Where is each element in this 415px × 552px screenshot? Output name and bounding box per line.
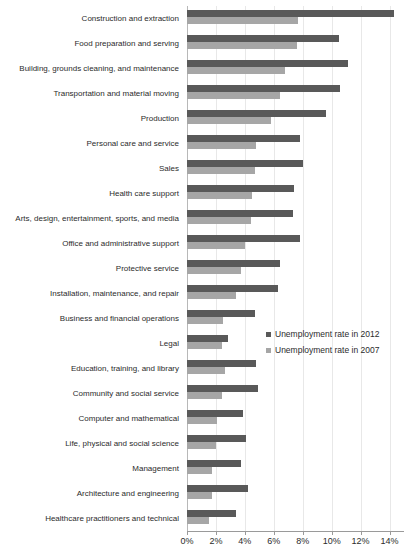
bar-2012 bbox=[187, 235, 300, 242]
bar-row bbox=[187, 431, 404, 456]
category-label: Construction and extraction bbox=[0, 6, 184, 31]
category-label: Transportation and material moving bbox=[0, 81, 184, 106]
bar-2012 bbox=[187, 60, 348, 67]
x-tick-2pct bbox=[216, 531, 217, 535]
legend-swatch-icon bbox=[266, 348, 271, 353]
x-tick-12pct bbox=[361, 531, 362, 535]
category-label: Life, physical and social science bbox=[0, 431, 184, 456]
bar-2007 bbox=[187, 217, 251, 224]
bar-row bbox=[187, 181, 404, 206]
category-label: Production bbox=[0, 106, 184, 131]
bar-2007 bbox=[187, 467, 212, 474]
x-tick-6pct bbox=[274, 531, 275, 535]
legend-swatch-icon bbox=[266, 332, 271, 337]
legend-label: Unemployment rate in 2012 bbox=[275, 329, 379, 339]
bar-2012 bbox=[187, 385, 258, 392]
bar-row bbox=[187, 31, 404, 56]
bar-2012 bbox=[187, 285, 278, 292]
x-tick-label: 12% bbox=[352, 536, 370, 546]
category-label: Sales bbox=[0, 156, 184, 181]
bar-row bbox=[187, 281, 404, 306]
bar-2012 bbox=[187, 410, 243, 417]
bar-2012 bbox=[187, 10, 394, 17]
category-label: Computer and mathematical bbox=[0, 406, 184, 431]
bar-2007 bbox=[187, 192, 252, 199]
bar-2012 bbox=[187, 35, 339, 42]
legend-item[interactable]: Unemployment rate in 2007 bbox=[266, 342, 406, 358]
x-tick-14pct bbox=[390, 531, 391, 535]
legend-label: Unemployment rate in 2007 bbox=[275, 345, 379, 355]
x-tick-4pct bbox=[245, 531, 246, 535]
bar-2007 bbox=[187, 342, 222, 349]
x-axis-tick-labels: 0%2%4%6%8%10%12%14% bbox=[0, 536, 415, 550]
bar-row bbox=[187, 106, 404, 131]
bar-2012 bbox=[187, 335, 228, 342]
x-tick-label: 6% bbox=[267, 536, 280, 546]
x-tick-label: 8% bbox=[296, 536, 309, 546]
x-tick-label: 2% bbox=[209, 536, 222, 546]
bar-2007 bbox=[187, 417, 217, 424]
plot-area bbox=[187, 6, 404, 531]
category-label: Office and administrative support bbox=[0, 231, 184, 256]
bar-2012 bbox=[187, 360, 256, 367]
legend: Unemployment rate in 2012Unemployment ra… bbox=[266, 326, 406, 358]
bar-row bbox=[187, 256, 404, 281]
category-label: Business and financial operations bbox=[0, 306, 184, 331]
bar-2007 bbox=[187, 492, 212, 499]
bar-2012 bbox=[187, 485, 248, 492]
bar-2012 bbox=[187, 160, 303, 167]
bar-2007 bbox=[187, 267, 241, 274]
category-label: Personal care and service bbox=[0, 131, 184, 156]
x-tick-label: 14% bbox=[381, 536, 399, 546]
category-axis-labels: Construction and extractionFood preparat… bbox=[0, 6, 184, 531]
bar-row bbox=[187, 131, 404, 156]
bar-row bbox=[187, 356, 404, 381]
bar-2007 bbox=[187, 317, 223, 324]
bar-2007 bbox=[187, 17, 298, 24]
bar-2007 bbox=[187, 517, 209, 524]
bar-2007 bbox=[187, 242, 245, 249]
bar-row bbox=[187, 381, 404, 406]
bar-row bbox=[187, 156, 404, 181]
category-label: Protective service bbox=[0, 256, 184, 281]
bar-2012 bbox=[187, 210, 293, 217]
bar-2007 bbox=[187, 392, 222, 399]
bar-2012 bbox=[187, 135, 300, 142]
bar-row bbox=[187, 231, 404, 256]
bar-2007 bbox=[187, 42, 297, 49]
bar-row bbox=[187, 481, 404, 506]
x-axis-ticks bbox=[187, 531, 404, 535]
bar-row bbox=[187, 506, 404, 531]
bar-row bbox=[187, 206, 404, 231]
x-tick-label: 0% bbox=[180, 536, 193, 546]
bar-2007 bbox=[187, 292, 236, 299]
category-label: Education, training, and library bbox=[0, 356, 184, 381]
category-label: Community and social service bbox=[0, 381, 184, 406]
bar-2012 bbox=[187, 260, 280, 267]
bar-2007 bbox=[187, 367, 225, 374]
x-tick-0pct bbox=[187, 531, 188, 535]
bar-2012 bbox=[187, 185, 294, 192]
bar-2007 bbox=[187, 442, 216, 449]
bar-2012 bbox=[187, 435, 246, 442]
category-label: Installation, maintenance, and repair bbox=[0, 281, 184, 306]
bar-row bbox=[187, 6, 404, 31]
bar-2012 bbox=[187, 460, 241, 467]
category-label: Architecture and engineering bbox=[0, 481, 184, 506]
bar-row bbox=[187, 456, 404, 481]
x-tick-8pct bbox=[303, 531, 304, 535]
bar-row bbox=[187, 56, 404, 81]
bar-2007 bbox=[187, 117, 271, 124]
category-label: Food preparation and serving bbox=[0, 31, 184, 56]
bar-2012 bbox=[187, 85, 340, 92]
category-label: Management bbox=[0, 456, 184, 481]
category-label: Building, grounds cleaning, and maintena… bbox=[0, 56, 184, 81]
bar-2012 bbox=[187, 310, 255, 317]
legend-item[interactable]: Unemployment rate in 2012 bbox=[266, 326, 406, 342]
bar-chart: Construction and extractionFood preparat… bbox=[0, 0, 415, 552]
bar-2007 bbox=[187, 167, 255, 174]
category-label: Legal bbox=[0, 331, 184, 356]
category-label: Health care support bbox=[0, 181, 184, 206]
bar-row bbox=[187, 406, 404, 431]
bar-2007 bbox=[187, 92, 280, 99]
